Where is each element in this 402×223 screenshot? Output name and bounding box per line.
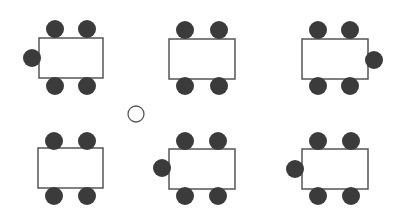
table-rect	[169, 149, 235, 189]
chair-circle	[78, 187, 96, 205]
chair-circle	[341, 77, 359, 95]
chair-circle	[78, 77, 96, 95]
chair-circle	[209, 187, 227, 205]
table-rect	[302, 149, 368, 189]
chair-circle	[342, 187, 360, 205]
chair-circle	[209, 132, 227, 150]
chair-circle	[45, 187, 63, 205]
chair-circle	[46, 77, 64, 95]
chair-circle	[23, 49, 41, 67]
table-rect	[169, 39, 235, 79]
chair-circle	[286, 160, 304, 178]
table-rect	[38, 148, 103, 188]
chair-circle	[176, 77, 194, 95]
chair-circle	[365, 51, 383, 69]
chair-circle	[46, 20, 64, 38]
chair-circle	[210, 77, 228, 95]
chair-circle	[45, 132, 63, 150]
chair-circle	[309, 21, 327, 39]
chair-circle	[342, 132, 360, 150]
chair-circle	[176, 21, 194, 39]
chair-circle	[341, 21, 359, 39]
seating-diagram	[0, 0, 402, 223]
empty-seat-circle	[128, 106, 144, 122]
chair-circle	[309, 132, 327, 150]
chair-circle	[210, 21, 228, 39]
table-rect	[302, 39, 368, 79]
chair-circle	[176, 132, 194, 150]
table-rect	[39, 38, 103, 78]
chair-circle	[309, 77, 327, 95]
chair-circle	[78, 132, 96, 150]
chair-circle	[309, 187, 327, 205]
chair-circle	[78, 20, 96, 38]
chair-circle	[176, 187, 194, 205]
chair-circle	[153, 159, 171, 177]
